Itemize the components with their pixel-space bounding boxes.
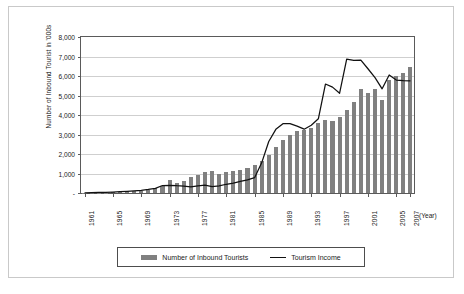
legend-label: Number of Inbound Tourists bbox=[162, 254, 248, 261]
x-axis-tick-mark bbox=[141, 194, 142, 197]
chart-figure: Number of Inbound Tourist in '000s 8,000… bbox=[8, 6, 454, 278]
x-axis-tick-mark bbox=[113, 194, 114, 197]
x-axis-tick-mark bbox=[396, 194, 397, 197]
line-swatch-icon bbox=[270, 257, 286, 258]
x-axis-tick-label: 1973 bbox=[173, 211, 180, 226]
x-axis-tick-mark bbox=[283, 194, 284, 197]
y-axis-tick-label: 7,000 bbox=[15, 53, 75, 60]
x-axis-tick-label: 1993 bbox=[314, 211, 321, 226]
y-axis-tick-label: 6,000 bbox=[15, 73, 75, 80]
x-axis-tick-mark bbox=[340, 194, 341, 197]
y-axis-tick-mark bbox=[78, 115, 81, 116]
x-axis-tick-mark bbox=[170, 194, 171, 197]
x-axis-tick-label: 1961 bbox=[88, 211, 95, 226]
line-series bbox=[81, 37, 414, 193]
y-axis-tick-mark bbox=[78, 96, 81, 97]
y-axis-tick-mark bbox=[78, 174, 81, 175]
x-axis-tick-mark bbox=[198, 194, 199, 197]
x-axis-tick-label: 1985 bbox=[258, 211, 265, 226]
x-axis-tick-label: 1989 bbox=[286, 211, 293, 226]
y-axis-tick-mark bbox=[78, 193, 81, 194]
y-axis-tick-label: 3,000 bbox=[15, 131, 75, 138]
x-axis-tick-label: 2001 bbox=[371, 211, 378, 226]
x-axis-tick-mark bbox=[255, 194, 256, 197]
legend-label: Tourism Income bbox=[291, 254, 340, 261]
x-axis-tick-label: 1965 bbox=[116, 211, 123, 226]
y-axis-tick-mark bbox=[78, 37, 81, 38]
y-axis-tick-label: 8,000 bbox=[15, 34, 75, 41]
y-axis-tick-mark bbox=[78, 135, 81, 136]
x-axis-tick-mark bbox=[311, 194, 312, 197]
y-axis-tick-label: - bbox=[15, 190, 75, 197]
y-axis-tick-label: 5,000 bbox=[15, 92, 75, 99]
legend-item-tourism-income: Tourism Income bbox=[270, 254, 340, 261]
y-axis-tick-mark bbox=[78, 57, 81, 58]
x-axis-tick-label: 2005 bbox=[399, 211, 406, 226]
x-axis-tick-mark bbox=[410, 194, 411, 197]
bar-swatch-icon bbox=[141, 255, 157, 260]
legend-item-inbound-tourists: Number of Inbound Tourists bbox=[141, 254, 248, 261]
x-axis-tick-mark bbox=[226, 194, 227, 197]
y-axis-tick-label: 1,000 bbox=[15, 170, 75, 177]
y-axis-tick-mark bbox=[78, 154, 81, 155]
y-axis-tick-label: 2,000 bbox=[15, 151, 75, 158]
x-axis-tick-label: 1981 bbox=[229, 211, 236, 226]
x-axis-tick-mark bbox=[85, 194, 86, 197]
chart-legend: Number of Inbound Tourists Tourism Incom… bbox=[117, 247, 365, 267]
y-axis-tick-mark bbox=[78, 76, 81, 77]
x-axis-unit-label: (Year) bbox=[419, 212, 437, 219]
x-axis-tick-label: 1997 bbox=[343, 211, 350, 226]
plot-area: 8,0007,0006,0005,0004,0003,0002,0001,000… bbox=[80, 36, 415, 194]
x-axis-tick-mark bbox=[368, 194, 369, 197]
x-axis-tick-label: 1969 bbox=[144, 211, 151, 226]
x-axis-tick-label: 1977 bbox=[201, 211, 208, 226]
y-axis-tick-label: 4,000 bbox=[15, 112, 75, 119]
